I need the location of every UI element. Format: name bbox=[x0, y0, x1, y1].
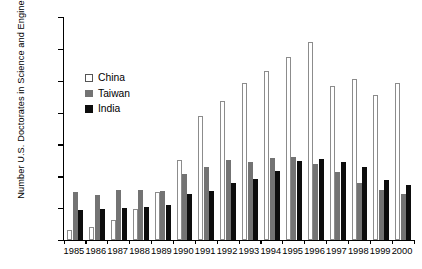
bar-china-1999 bbox=[373, 95, 378, 240]
bar-series-container bbox=[63, 17, 413, 240]
bar-china-1986 bbox=[89, 227, 94, 240]
bar-taiwan-1995 bbox=[291, 157, 296, 240]
bar-group bbox=[347, 17, 369, 240]
x-axis-tick bbox=[151, 240, 152, 244]
legend-label-india: India bbox=[98, 101, 120, 117]
legend-item-china: China bbox=[85, 70, 130, 86]
bar-india-1986 bbox=[100, 209, 105, 240]
bar-group bbox=[194, 17, 216, 240]
bar-china-1987 bbox=[111, 220, 116, 240]
bar-taiwan-1993 bbox=[248, 162, 253, 240]
bar-taiwan-1988 bbox=[138, 190, 143, 240]
bar-china-1996 bbox=[308, 42, 313, 240]
x-axis-tick bbox=[414, 240, 415, 244]
bar-taiwan-1986 bbox=[95, 195, 100, 240]
bar-china-1988 bbox=[133, 209, 138, 240]
bar-india-2000 bbox=[406, 185, 411, 240]
x-axis-tick bbox=[304, 240, 305, 244]
bar-china-1991 bbox=[198, 116, 203, 240]
square-outline-icon bbox=[85, 74, 93, 82]
x-axis-label-2000: 2000 bbox=[382, 246, 422, 256]
bar-group bbox=[85, 17, 107, 240]
bar-india-1988 bbox=[144, 207, 149, 240]
square-gray-icon bbox=[85, 90, 93, 98]
bar-group bbox=[238, 17, 260, 240]
bar-taiwan-1992 bbox=[226, 160, 231, 240]
square-black-icon bbox=[85, 105, 93, 113]
bar-china-1992 bbox=[220, 101, 225, 240]
bar-taiwan-2000 bbox=[401, 194, 406, 241]
bar-china-1985 bbox=[67, 230, 72, 240]
bar-taiwan-1998 bbox=[357, 183, 362, 240]
legend-label-taiwan: Taiwan bbox=[98, 86, 130, 102]
x-axis-tick bbox=[282, 240, 283, 244]
x-axis-tick bbox=[195, 240, 196, 244]
bar-india-1998 bbox=[362, 167, 367, 240]
bar-group bbox=[107, 17, 129, 240]
x-axis-tick bbox=[348, 240, 349, 244]
bar-taiwan-1985 bbox=[73, 192, 78, 240]
x-axis-tick bbox=[64, 240, 65, 244]
bar-group bbox=[391, 17, 413, 240]
legend-label-china: China bbox=[98, 70, 125, 86]
bar-taiwan-1991 bbox=[204, 167, 209, 240]
x-axis-tick bbox=[370, 240, 371, 244]
y-axis-title: Number U.S. Doctorates in Science and En… bbox=[16, 0, 26, 214]
bar-india-1993 bbox=[253, 179, 258, 240]
bar-china-1990 bbox=[177, 160, 182, 240]
bar-india-1987 bbox=[122, 208, 127, 240]
plot-area bbox=[63, 17, 413, 240]
bar-taiwan-1994 bbox=[270, 158, 275, 240]
bar-india-1995 bbox=[297, 161, 302, 240]
y-axis-tick bbox=[58, 240, 63, 241]
bar-china-1997 bbox=[330, 86, 335, 240]
x-axis-tick bbox=[392, 240, 393, 244]
bar-china-1998 bbox=[352, 79, 357, 240]
bar-india-1996 bbox=[319, 159, 324, 240]
bar-china-1994 bbox=[264, 71, 269, 240]
bar-china-1995 bbox=[286, 57, 291, 241]
bar-group bbox=[172, 17, 194, 240]
bar-china-1993 bbox=[242, 83, 247, 240]
bar-china-1989 bbox=[155, 192, 160, 240]
legend-item-india: India bbox=[85, 101, 130, 117]
bar-group bbox=[304, 17, 326, 240]
bar-group bbox=[151, 17, 173, 240]
bar-taiwan-1999 bbox=[379, 190, 384, 240]
bar-india-1989 bbox=[166, 205, 171, 240]
bar-india-1997 bbox=[341, 162, 346, 240]
bar-india-1985 bbox=[78, 210, 83, 240]
bar-india-1992 bbox=[231, 183, 236, 240]
x-axis-tick bbox=[107, 240, 108, 244]
bar-india-1990 bbox=[187, 194, 192, 240]
bar-taiwan-1996 bbox=[313, 164, 318, 240]
bar-chart: Number U.S. Doctorates in Science and En… bbox=[0, 0, 422, 269]
x-axis-tick bbox=[173, 240, 174, 244]
bar-india-1994 bbox=[275, 171, 280, 240]
bar-group bbox=[369, 17, 391, 240]
x-axis-tick bbox=[129, 240, 130, 244]
bar-india-1999 bbox=[384, 180, 389, 240]
bar-group bbox=[63, 17, 85, 240]
bar-taiwan-1990 bbox=[182, 174, 187, 240]
x-axis-tick bbox=[85, 240, 86, 244]
bar-taiwan-1987 bbox=[116, 190, 121, 240]
bar-india-1991 bbox=[209, 191, 214, 240]
bar-group bbox=[282, 17, 304, 240]
bar-group bbox=[326, 17, 348, 240]
x-axis-tick bbox=[260, 240, 261, 244]
legend-item-taiwan: Taiwan bbox=[85, 86, 130, 102]
x-axis-tick bbox=[217, 240, 218, 244]
x-axis-tick bbox=[326, 240, 327, 244]
bar-taiwan-1989 bbox=[160, 191, 165, 240]
x-axis-tick bbox=[239, 240, 240, 244]
bar-group bbox=[260, 17, 282, 240]
bar-china-2000 bbox=[395, 83, 400, 240]
bar-taiwan-1997 bbox=[335, 172, 340, 240]
chart-legend: China Taiwan India bbox=[85, 70, 130, 117]
bar-group bbox=[216, 17, 238, 240]
bar-group bbox=[129, 17, 151, 240]
